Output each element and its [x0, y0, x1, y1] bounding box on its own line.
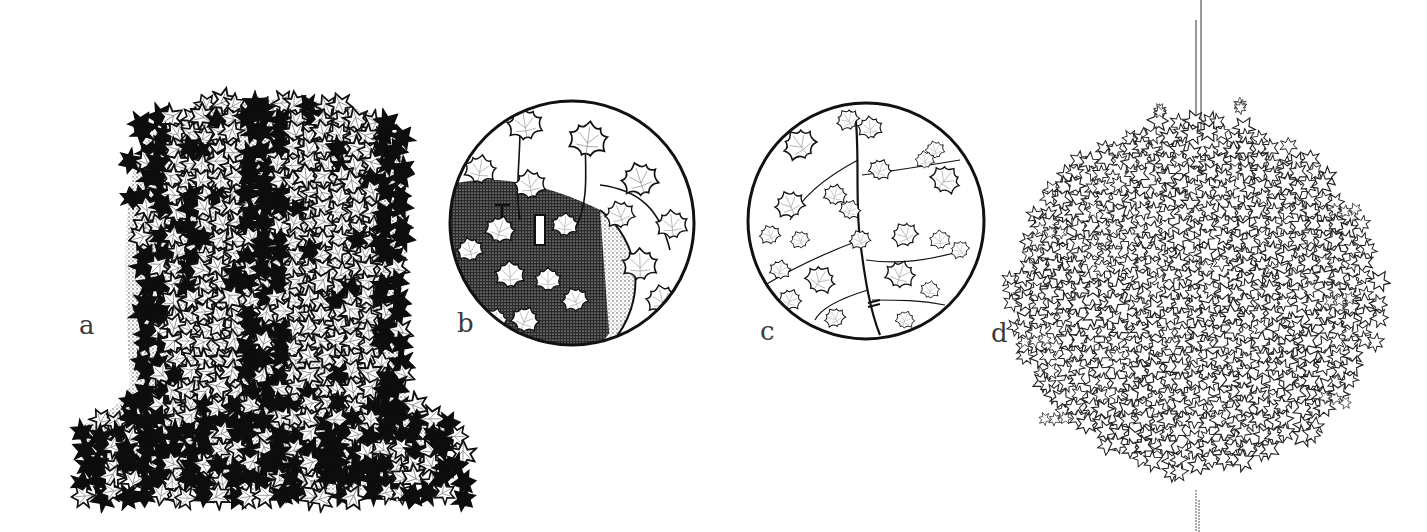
panel-c-stem-detail — [748, 103, 984, 339]
panel-b-moss-detail — [440, 95, 710, 355]
panel-a-bell-topiary — [66, 85, 480, 516]
label-d: d — [991, 320, 1008, 346]
label-b: b — [457, 310, 474, 336]
illustration-canvas — [0, 0, 1427, 532]
label-a: a — [79, 312, 95, 338]
panel-d-hanging-ball — [998, 0, 1394, 532]
label-c: c — [760, 318, 775, 344]
